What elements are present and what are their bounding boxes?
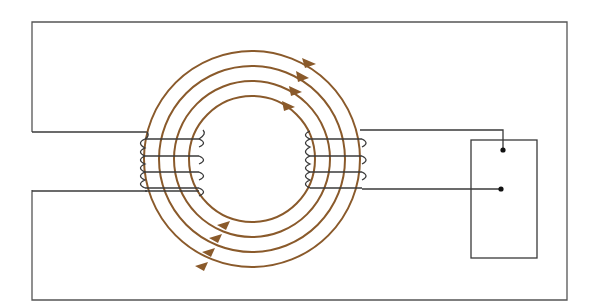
arrow-icon [195, 262, 208, 271]
terminal-1 [500, 147, 505, 152]
diagram-canvas [0, 0, 591, 303]
primary-leads [32, 132, 147, 191]
arrow-icon [282, 101, 295, 111]
terminal-2 [498, 186, 503, 191]
transformer-diagram [0, 0, 591, 303]
arrow-icon [302, 58, 316, 68]
flux-lines [144, 51, 360, 267]
flux-line-4 [189, 96, 315, 222]
load-box [471, 140, 537, 258]
flux-line-3 [174, 81, 330, 237]
arrow-icon [296, 71, 309, 82]
flux-arrows-top [282, 58, 316, 111]
secondary-leads [360, 130, 503, 189]
flux-line-1 [144, 51, 360, 267]
flux-line-2 [159, 66, 345, 252]
